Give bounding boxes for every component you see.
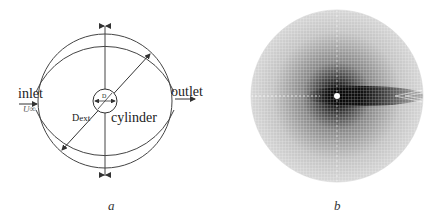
panel-b-mesh: b xyxy=(225,0,445,224)
cylinder-hole xyxy=(334,93,340,99)
dext-label: Dext xyxy=(72,112,90,123)
outlet-label: outlet xyxy=(171,84,203,100)
velocity-label: U∞ xyxy=(23,104,36,114)
mesh-image xyxy=(225,0,445,224)
d-label: D xyxy=(102,93,106,99)
panel-a-schematic: inlet U∞ outlet cylinder Dext D a xyxy=(0,0,225,224)
cylinder-label: cylinder xyxy=(111,110,157,126)
caption-b: b xyxy=(334,198,341,214)
inlet-label: inlet xyxy=(18,86,43,102)
caption-a: a xyxy=(108,198,115,214)
